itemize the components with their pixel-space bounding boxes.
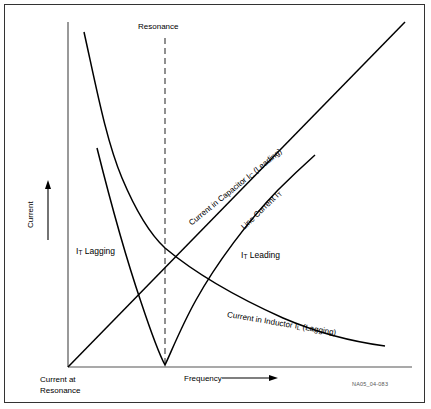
current-at-resonance-label: Current atResonance bbox=[40, 375, 120, 397]
curve-line-current bbox=[97, 148, 315, 365]
y-axis-label: Current bbox=[26, 201, 37, 228]
it-leading-annotation: IT Leading bbox=[241, 250, 280, 262]
y-axis-arrow-group bbox=[45, 180, 51, 240]
x-axis-arrow-head bbox=[269, 375, 278, 381]
y-axis-arrow-head bbox=[45, 180, 51, 189]
it-lagging-text: Lagging bbox=[82, 246, 115, 256]
figure-id-code: NA05_04-083 bbox=[352, 381, 388, 387]
figure-container: Resonance Current Frequency Current atRe… bbox=[0, 0, 431, 409]
current-at-resonance-line1: Current at bbox=[40, 375, 76, 384]
it-lagging-annotation: IT Lagging bbox=[76, 246, 115, 258]
x-axis-arrow-group bbox=[222, 375, 278, 381]
it-leading-text: Leading bbox=[247, 250, 280, 260]
current-at-resonance-line2: Resonance bbox=[40, 386, 80, 395]
resonance-label: Resonance bbox=[138, 22, 178, 33]
x-axis-label: Frequency bbox=[184, 374, 222, 385]
